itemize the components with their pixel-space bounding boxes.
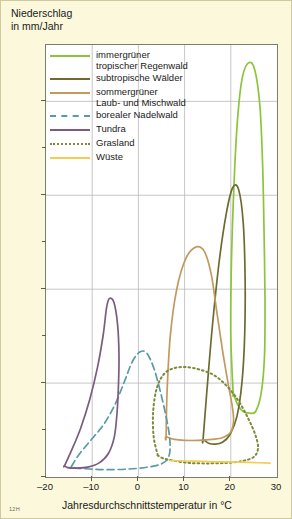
legend-item: sommergrüner Laub- und Mischwald [50, 87, 188, 108]
x-tick-label: 10 [164, 481, 204, 492]
series-curve-immergr-ner-tropischer-regenwald [231, 62, 265, 413]
legend-swatch-line-icon [50, 50, 90, 62]
x-tick-label: 0 [117, 481, 157, 492]
legend-item-label: immergrüner tropischer Regenwald [96, 50, 188, 71]
legend-item-label: Grasland [96, 138, 135, 149]
y-tick-mark [41, 100, 46, 101]
legend-swatch-line-icon [50, 124, 90, 136]
series-curve-sommergr-ner-laub-und-mischwald [165, 247, 233, 441]
legend-item: subtropische Wälder [50, 73, 188, 85]
legend-item: Wüste [50, 152, 188, 164]
legend-swatch-line-icon [50, 73, 90, 85]
x-tick-mark [91, 476, 92, 481]
y-tick-mark [41, 382, 46, 383]
y-axis-title: Niederschlag in mm/Jahr [11, 7, 72, 32]
y-tick-mark [41, 288, 46, 289]
legend-swatch-line-icon [50, 110, 90, 122]
series-curve-borealer-nadelwald [71, 351, 170, 470]
x-tick-label: –20 [25, 481, 65, 492]
legend-item: borealer Nadelwald [50, 110, 188, 122]
y-tick-mark [41, 194, 46, 195]
y-minor-tick-mark [42, 335, 46, 336]
legend-item: immergrüner tropischer Regenwald [50, 50, 188, 71]
x-axis-title: Jahresdurchschnittstemperatur in °C [1, 499, 292, 511]
x-tick-label: 20 [210, 481, 250, 492]
legend-item-label: Tundra [96, 124, 126, 135]
legend-item-label: Wüste [96, 152, 123, 163]
precipitation-temperature-chart: Niederschlag in mm/Jahr 0100020003000400… [0, 0, 292, 519]
x-tick-mark [229, 476, 230, 481]
legend-item-label: subtropische Wälder [96, 73, 183, 84]
x-tick-label: 30 [256, 481, 292, 492]
chart-legend: immergrüner tropischer Regenwaldsubtropi… [50, 50, 188, 166]
y-minor-tick-mark [42, 241, 46, 242]
legend-item: Grasland [50, 138, 188, 150]
legend-item-label: sommergrüner Laub- und Mischwald [96, 87, 186, 108]
series-curve-subtropische-w-lder [202, 185, 245, 444]
legend-item: Tundra [50, 124, 188, 136]
legend-swatch-line-icon [50, 152, 90, 164]
legend-swatch-line-icon [50, 87, 90, 99]
y-minor-tick-mark [42, 147, 46, 148]
legend-item-label: borealer Nadelwald [96, 110, 178, 121]
y-minor-tick-mark [42, 429, 46, 430]
legend-swatch-line-icon [50, 138, 90, 150]
x-tick-label: –10 [71, 481, 111, 492]
source-watermark: 12H [9, 506, 20, 512]
y-tick-mark [41, 476, 46, 477]
x-tick-mark [183, 476, 184, 481]
x-tick-mark [137, 476, 138, 481]
